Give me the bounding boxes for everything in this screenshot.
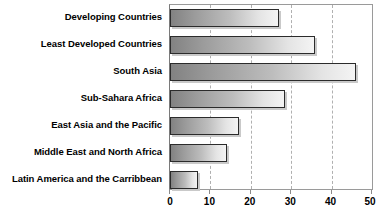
x-tick-mark xyxy=(331,190,332,194)
bar xyxy=(170,171,198,189)
category-label: Least Developed Countries xyxy=(41,35,162,53)
gridline xyxy=(291,5,292,189)
category-label: East Asia and the Pacific xyxy=(51,116,162,134)
bar-chart: Developing Countries Least Developed Cou… xyxy=(0,0,384,218)
value-axis: 0 10 20 30 40 50 xyxy=(169,190,373,216)
x-tick-label: 20 xyxy=(244,196,255,207)
x-tick-label: 0 xyxy=(167,196,173,207)
x-tick-label: 40 xyxy=(325,196,336,207)
gridline xyxy=(332,5,333,189)
bar xyxy=(170,36,315,54)
category-label: Middle East and North Africa xyxy=(34,143,162,161)
bar xyxy=(170,90,285,108)
bar xyxy=(170,9,279,27)
x-tick-label: 50 xyxy=(364,196,375,207)
bar xyxy=(170,144,227,162)
category-axis-labels: Developing Countries Least Developed Cou… xyxy=(0,4,166,190)
category-label: Latin America and the Carribbean xyxy=(12,170,162,188)
x-tick-mark xyxy=(169,190,170,194)
plot-area xyxy=(169,4,373,190)
category-label: South Asia xyxy=(113,62,162,80)
x-tick-mark xyxy=(371,190,372,194)
bar xyxy=(170,117,239,135)
category-label: Sub-Sahara Africa xyxy=(81,89,162,107)
x-tick-label: 30 xyxy=(285,196,296,207)
x-tick-mark xyxy=(290,190,291,194)
bar xyxy=(170,63,356,81)
category-label: Developing Countries xyxy=(65,8,162,26)
x-tick-mark xyxy=(209,190,210,194)
x-tick-label: 10 xyxy=(204,196,215,207)
x-tick-mark xyxy=(250,190,251,194)
